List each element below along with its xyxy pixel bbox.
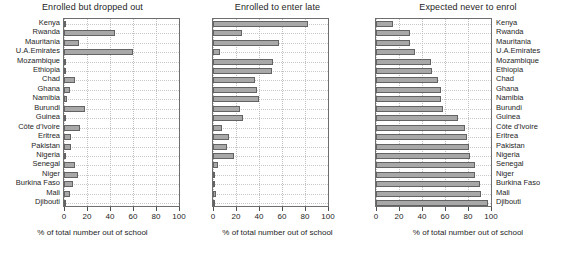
category-label: Niger [0, 170, 60, 178]
x-axis-tick [156, 207, 157, 211]
bar [64, 21, 66, 27]
category-label: Nigeria [0, 151, 60, 159]
category-label: Djibouti [496, 198, 566, 206]
bar [376, 125, 465, 131]
bar [376, 30, 410, 36]
bar [64, 115, 66, 121]
gridline-horizontal [64, 71, 179, 72]
plot-area [375, 18, 492, 207]
bar [64, 68, 66, 74]
gridline-horizontal [64, 62, 179, 63]
x-axis-tick-label: 0 [374, 212, 378, 221]
bar [64, 59, 66, 65]
x-axis-tick [468, 207, 469, 211]
bar [64, 172, 78, 178]
bar [64, 162, 75, 168]
bar [213, 40, 279, 46]
bar [376, 191, 481, 197]
bar [213, 153, 234, 159]
category-label: Burundi [496, 104, 566, 112]
category-label: Chad [496, 75, 566, 83]
category-label: Ghana [0, 85, 60, 93]
gridline-horizontal [213, 184, 328, 185]
bar [376, 134, 467, 140]
figure-canvas: Enrolled but dropped out020406080100% of… [0, 0, 566, 263]
gridline-vertical [399, 19, 400, 206]
category-label: Chad [0, 75, 60, 83]
chart-panel-1: Enrolled but dropped out020406080100% of… [0, 0, 185, 263]
gridline-horizontal [64, 137, 179, 138]
panel-title: Enrolled but dropped out [0, 2, 185, 12]
category-label: Rwanda [0, 28, 60, 36]
gridline-horizontal [376, 24, 491, 25]
bar [213, 181, 215, 187]
bar [64, 153, 66, 159]
gridline-vertical [110, 19, 111, 206]
bar [213, 87, 257, 93]
bar [376, 96, 441, 102]
bar [376, 162, 475, 168]
gridline-vertical [156, 19, 157, 206]
category-label: Namibia [0, 94, 60, 102]
x-axis-tick [328, 207, 329, 211]
x-axis-tick-label: 80 [464, 212, 473, 221]
bar [376, 68, 432, 74]
bar [213, 172, 215, 178]
gridline-horizontal [64, 128, 179, 129]
chart-panel-2: Enrolled to enter late020406080100% of t… [185, 0, 370, 263]
x-axis-tick-label: 100 [172, 212, 185, 221]
category-label: Mozambique [0, 57, 60, 65]
gridline-horizontal [64, 156, 179, 157]
bar [376, 21, 393, 27]
bar [213, 191, 216, 197]
x-axis-tick [133, 207, 134, 211]
bar [213, 200, 215, 206]
panel-title: Enrolled to enter late [185, 2, 370, 12]
bar [376, 200, 488, 206]
x-axis-tick-label: 80 [152, 212, 161, 221]
bar [376, 87, 441, 93]
x-axis-tick [110, 207, 111, 211]
bar [213, 59, 273, 65]
bar [376, 49, 415, 55]
category-label: Mauritania [496, 38, 566, 46]
gridline-horizontal [64, 184, 179, 185]
bar [213, 30, 242, 36]
bar [376, 106, 443, 112]
gridline-vertical [64, 19, 65, 206]
x-axis-title: % of total number out of school [185, 228, 370, 237]
x-axis-tick [282, 207, 283, 211]
category-label: Kenya [496, 19, 566, 27]
x-axis-tick-label: 60 [278, 212, 287, 221]
bar [64, 96, 67, 102]
bar [213, 115, 243, 121]
gridline-vertical [445, 19, 446, 206]
bar [213, 21, 308, 27]
bar [376, 40, 410, 46]
gridline-vertical [305, 19, 306, 206]
category-label: Mozambique [496, 57, 566, 65]
bar [64, 181, 73, 187]
bar [376, 59, 431, 65]
gridline-vertical [422, 19, 423, 206]
category-label: Eritrea [496, 132, 566, 140]
gridline-vertical [282, 19, 283, 206]
x-axis-title: % of total number out of school [370, 228, 566, 237]
x-axis-tick [445, 207, 446, 211]
bar [64, 144, 71, 150]
gridline-vertical [468, 19, 469, 206]
gridline-vertical [133, 19, 134, 206]
category-label: Guinea [496, 113, 566, 121]
x-axis-tick [64, 207, 65, 211]
gridline-horizontal [64, 165, 179, 166]
bar [64, 40, 79, 46]
category-label: Niger [496, 170, 566, 178]
x-axis-tick-label: 40 [255, 212, 264, 221]
gridline-horizontal [213, 52, 328, 53]
bar [376, 115, 458, 121]
gridline-vertical [259, 19, 260, 206]
x-axis-tick [422, 207, 423, 211]
x-axis-title: % of total number out of school [0, 228, 185, 237]
gridline-horizontal [64, 194, 179, 195]
bar [64, 49, 133, 55]
